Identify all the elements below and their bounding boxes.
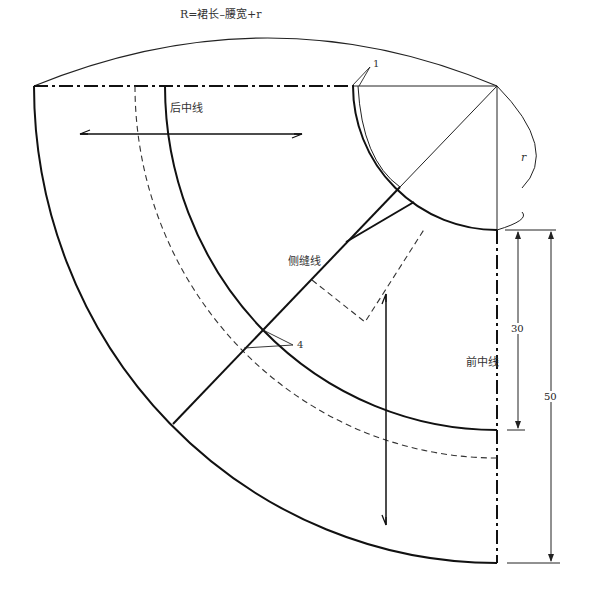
pattern-drawing <box>0 0 589 595</box>
seam-allowance-arc <box>135 86 497 458</box>
waist-adjust-arc <box>358 86 400 187</box>
r-label: r <box>521 151 526 164</box>
marker-1-label: 1 <box>373 58 379 69</box>
dimension-30-label: 30 <box>511 323 524 334</box>
r-arc-top <box>497 86 536 188</box>
front-center-label: 前中线 <box>466 353 499 369</box>
radius-arc <box>34 38 497 86</box>
radius-formula-label: R=裙长–腰宽+r <box>180 5 261 21</box>
hem-arc <box>34 86 497 563</box>
diagonal-construction-line <box>400 86 497 187</box>
pocket-dashed <box>312 228 425 322</box>
back-center-label: 后中线 <box>170 99 203 115</box>
marker-4-leader <box>244 330 293 348</box>
dimension-50-label: 50 <box>544 391 557 402</box>
marker-4-label: 4 <box>297 339 303 350</box>
side-seam-label: 侧缝线 <box>288 252 321 268</box>
marker-1-leader <box>352 67 370 86</box>
r-arc-bottom <box>497 212 524 230</box>
